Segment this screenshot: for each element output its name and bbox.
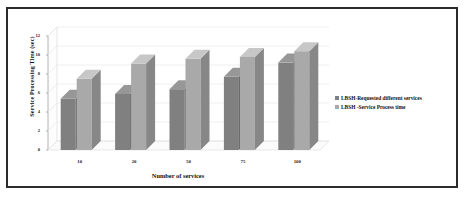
bar-50-series2 [186, 50, 210, 150]
bar-20-series2 [131, 55, 155, 150]
legend-swatch-icon [335, 96, 339, 100]
x-axis-tick-label: 50 [174, 159, 204, 164]
x-axis-tick-label: 100 [282, 159, 312, 164]
legend-label: LBSH-Requested different services [341, 95, 422, 101]
chart-frame: Service Processing Time (sec) Number of … [6, 7, 458, 188]
x-axis-tick-label: 20 [119, 159, 149, 164]
bar-10-series2 [77, 70, 101, 150]
bar-75-series2 [240, 48, 264, 150]
x-axis-tick-label: 75 [228, 159, 258, 164]
bar-100-series2 [294, 42, 318, 150]
legend-item-2[interactable]: LBSH -Service Process time [335, 104, 457, 110]
legend-item-1[interactable]: LBSH-Requested different services [335, 95, 457, 101]
chart-plot-area: Service Processing Time (sec) Number of … [8, 9, 460, 190]
legend-swatch-icon [335, 105, 339, 109]
legend-label: LBSH -Service Process time [341, 104, 405, 110]
chart-legend: LBSH-Requested different servicesLBSH -S… [335, 95, 457, 113]
bar-group [8, 9, 338, 174]
x-axis-tick-label: 10 [65, 159, 95, 164]
